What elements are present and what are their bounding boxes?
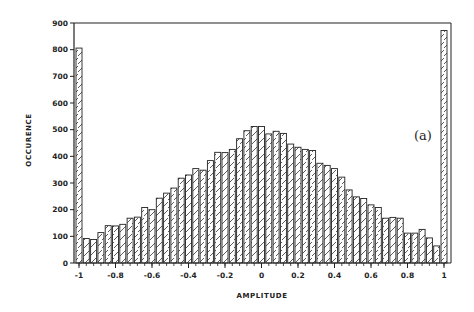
histogram-bar xyxy=(368,205,374,263)
x-tick-label: -0.4 xyxy=(180,271,196,280)
histogram-bar xyxy=(207,161,213,263)
histogram-bar xyxy=(332,169,338,263)
histogram-bar xyxy=(426,238,432,263)
histogram-bars xyxy=(76,30,447,263)
histogram-bar xyxy=(419,229,425,263)
histogram-bar xyxy=(441,30,447,263)
x-tick-label: -0.2 xyxy=(217,271,233,280)
histogram-bar xyxy=(164,193,170,263)
histogram-bar xyxy=(127,218,133,263)
x-tick-label: -1 xyxy=(75,271,83,280)
histogram-bar xyxy=(186,175,192,263)
histogram-bar xyxy=(390,217,396,263)
histogram-bar xyxy=(134,217,140,263)
histogram-bar xyxy=(288,144,294,263)
histogram-bar xyxy=(259,126,265,263)
histogram-bar xyxy=(405,233,411,263)
histogram-bar xyxy=(310,150,316,263)
histogram-bar xyxy=(178,178,184,263)
histogram-bar xyxy=(273,131,279,263)
panel-label: (a) xyxy=(414,128,432,143)
histogram-bar xyxy=(244,131,250,263)
histogram-bar xyxy=(383,218,389,263)
y-tick-label: 800 xyxy=(52,45,68,54)
y-tick-label: 0 xyxy=(63,259,68,268)
histogram-bar xyxy=(83,238,89,263)
x-axis: -1-0.8-0.6-0.4-0.200.20.40.60.81 xyxy=(74,263,451,280)
histogram-bar xyxy=(317,163,323,263)
histogram-bar xyxy=(375,208,381,263)
x-tick-label: 0.6 xyxy=(364,271,377,280)
histogram-bar xyxy=(120,224,126,263)
histogram-bar xyxy=(222,153,228,263)
x-tick-label: 0 xyxy=(259,271,264,280)
histogram-bar xyxy=(113,226,119,263)
x-tick-label: 0.2 xyxy=(291,271,304,280)
y-tick-label: 500 xyxy=(52,125,68,134)
histogram-bar xyxy=(142,208,148,263)
histogram-bar xyxy=(98,233,104,263)
histogram-bar xyxy=(91,240,97,263)
histogram-bar xyxy=(434,246,440,263)
histogram-bar xyxy=(251,126,257,263)
histogram-bar xyxy=(237,139,243,263)
y-axis: 0100200300400500600700800900 xyxy=(52,19,74,268)
x-tick-label: -0.8 xyxy=(107,271,123,280)
histogram-bar xyxy=(280,133,286,263)
histogram-bar xyxy=(200,170,206,263)
histogram-bar xyxy=(156,198,162,263)
x-tick-label: 0.4 xyxy=(328,271,341,280)
histogram-bar xyxy=(229,149,235,263)
histogram-bar xyxy=(412,233,418,263)
x-tick-label: -0.6 xyxy=(144,271,160,280)
histogram-bar xyxy=(215,152,221,263)
x-axis-title: AMPLITUDE xyxy=(236,292,287,300)
histogram-bar xyxy=(266,134,272,263)
histogram-bar xyxy=(295,147,301,263)
histogram-bar xyxy=(324,165,330,263)
histogram-chart: 0100200300400500600700800900 -1-0.8-0.6-… xyxy=(0,0,474,312)
y-tick-label: 900 xyxy=(52,19,68,28)
y-tick-label: 600 xyxy=(52,99,68,108)
y-axis-title: OCCURENCE xyxy=(25,113,33,166)
histogram-bar xyxy=(105,226,111,263)
y-tick-label: 700 xyxy=(52,72,68,81)
y-tick-label: 400 xyxy=(52,152,68,161)
histogram-bar xyxy=(171,188,177,263)
histogram-bar xyxy=(346,190,352,263)
histogram-bar xyxy=(361,198,367,263)
histogram-bar xyxy=(76,48,82,263)
histogram-bar xyxy=(302,149,308,263)
x-tick-label: 1 xyxy=(441,271,446,280)
y-tick-label: 100 xyxy=(52,232,68,241)
histogram-bar xyxy=(193,169,199,263)
y-tick-label: 300 xyxy=(52,179,68,188)
histogram-bar xyxy=(353,197,359,263)
histogram-bar xyxy=(397,218,403,263)
histogram-bar xyxy=(339,177,345,263)
histogram-bar xyxy=(149,210,155,263)
x-tick-label: 0.8 xyxy=(401,271,414,280)
y-tick-label: 200 xyxy=(52,205,68,214)
